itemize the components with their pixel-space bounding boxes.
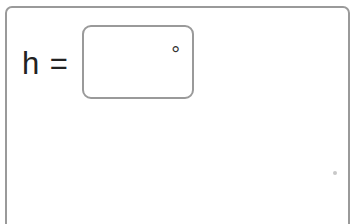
answer-input[interactable]: ° (82, 25, 194, 99)
degree-unit: ° (171, 43, 180, 67)
question-panel: h = ° (5, 6, 350, 224)
decorative-dot (333, 171, 337, 175)
variable-label: h = (22, 46, 69, 82)
